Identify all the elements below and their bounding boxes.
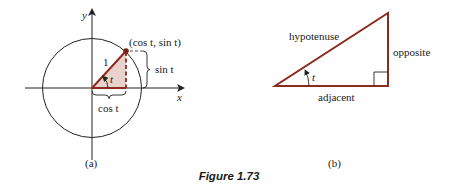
sin-label: sin t <box>155 63 174 75</box>
angle-label-b: t <box>312 71 316 83</box>
opposite-label: opposite <box>393 46 430 58</box>
cos-brace-icon <box>92 91 126 99</box>
radius-label: 1 <box>103 56 109 68</box>
panel-b-right-triangle: hypotenuse opposite adjacent t (b) <box>275 13 430 170</box>
panel-a-label: (a) <box>85 157 98 170</box>
point-on-circle <box>123 48 129 54</box>
figure-canvas: y x (cos t, sin t) 1 t sin t cos t (a) h… <box>0 0 449 186</box>
right-angle-marker-icon <box>374 72 388 86</box>
x-axis-label: x <box>176 91 182 103</box>
sin-brace-icon <box>143 51 150 88</box>
point-label: (cos t, sin t) <box>129 36 181 49</box>
right-triangle <box>275 13 388 86</box>
angle-arc-icon <box>306 71 310 86</box>
y-axis-label: y <box>81 9 87 21</box>
figure-caption: Figure 1.73 <box>199 170 260 182</box>
hypotenuse-label: hypotenuse <box>289 30 339 42</box>
adjacent-label: adjacent <box>318 91 355 103</box>
panel-a-unit-circle: y x (cos t, sin t) 1 t sin t cos t (a) <box>25 9 183 170</box>
panel-b-label: (b) <box>328 157 341 170</box>
cos-label: cos t <box>98 102 118 114</box>
